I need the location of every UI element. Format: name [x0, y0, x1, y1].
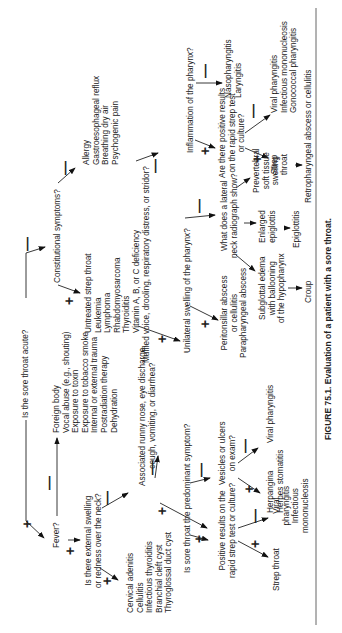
plus-sign: + [155, 335, 169, 343]
minus-sign: — [192, 199, 206, 213]
inflammation-question: Inflammation of the pharynx? [186, 47, 196, 153]
minus-sign: — [58, 161, 72, 175]
epiglottitis-result: Epiglottitis [292, 211, 302, 248]
minus-sign: — [145, 461, 159, 475]
minus-sign: — [194, 463, 208, 477]
root-question: Is the sore throat acute? [21, 330, 31, 418]
plus-sign: + [198, 320, 212, 328]
plus-sign: + [198, 147, 212, 155]
strep-throat-result: Strep throat [272, 548, 282, 591]
minus-sign: — [100, 491, 114, 505]
nasopharyngitis-result: NasopharyngitisLaryngitis [224, 39, 243, 98]
constitutional-question: Constitutional symptoms? [53, 189, 63, 283]
minus-sign: — [238, 439, 252, 453]
plus-sign: + [192, 535, 206, 543]
plus-sign: + [250, 155, 264, 163]
minus-sign: — [248, 509, 262, 523]
plus-sign: + [100, 577, 114, 585]
minus-sign: — [148, 159, 162, 173]
chronic-causes-list: Untreated strep throatLeukemiaLymphomaRh… [84, 230, 142, 333]
minus-sign: — [198, 64, 212, 78]
vesicles-question: Vesicles or ulcerson exam? [218, 421, 237, 485]
herpangina-result: HerpanginaHerpes stomatitis [266, 450, 285, 513]
plus-sign: + [62, 297, 76, 305]
noninfectious-causes-list: Foreign bodyVocal abuse (e.g., shouting)… [52, 332, 119, 434]
abscess-result: Peritonsillar abscessor cellulitisParaph… [220, 268, 249, 358]
plus-sign: + [248, 540, 262, 548]
rapid-strep-question-1: Positive results on therapid strep test … [218, 483, 237, 578]
muffled-voice-question: Muffled voice, drooling, respiratory dis… [142, 166, 152, 363]
strep-throat-result-2: Strepthroat [270, 154, 289, 175]
retropharyngeal-result: Retropharyngeal abscess or cellulitis [304, 70, 314, 203]
plus-sign: + [63, 547, 77, 555]
figure-caption: FIGURE 75.1. Evaluation of a patient wit… [323, 218, 333, 440]
other-causes-list: AllergyGastroesophageal refluxBreathing … [82, 76, 120, 165]
unilateral-swelling-question: Unilateral swelling of the pharynx? [183, 228, 193, 353]
minus-sign: — [20, 237, 34, 251]
minus-sign: — [42, 476, 56, 490]
enlarged-epiglottis-result: Enlargedepiglottis [258, 210, 277, 243]
flowchart-figure: Is the sore throat acute? + — Fever? — +… [0, 0, 342, 633]
croup-result: Croup [304, 281, 314, 303]
plus-sign: + [155, 507, 169, 515]
predominant-symptom-question: Is sore throat the predominant symptom? [183, 424, 193, 573]
neck-causes-list: Cervical adenitisCellulitisInfectious th… [126, 532, 174, 613]
subglottal-result: Subglottal edemawith ballooningof the hy… [258, 253, 287, 323]
radiograph-question: What does a lateralneck radiograph show? [220, 173, 239, 258]
viral-pharyngitis-result-2: Viral pharyngitis [266, 385, 276, 443]
minus-sign: — [246, 104, 260, 118]
viral-list-2: Viral pharyngitisInfectious mononucleosi… [270, 21, 299, 113]
plus-sign: + [20, 520, 34, 528]
rapid-strep-question-2: Are there positive resultson the rapid s… [218, 88, 247, 178]
fever-question: Fever? [52, 523, 62, 548]
external-swelling-question: Is there external swellingor redness ove… [84, 493, 103, 588]
plus-sign: + [242, 485, 256, 493]
